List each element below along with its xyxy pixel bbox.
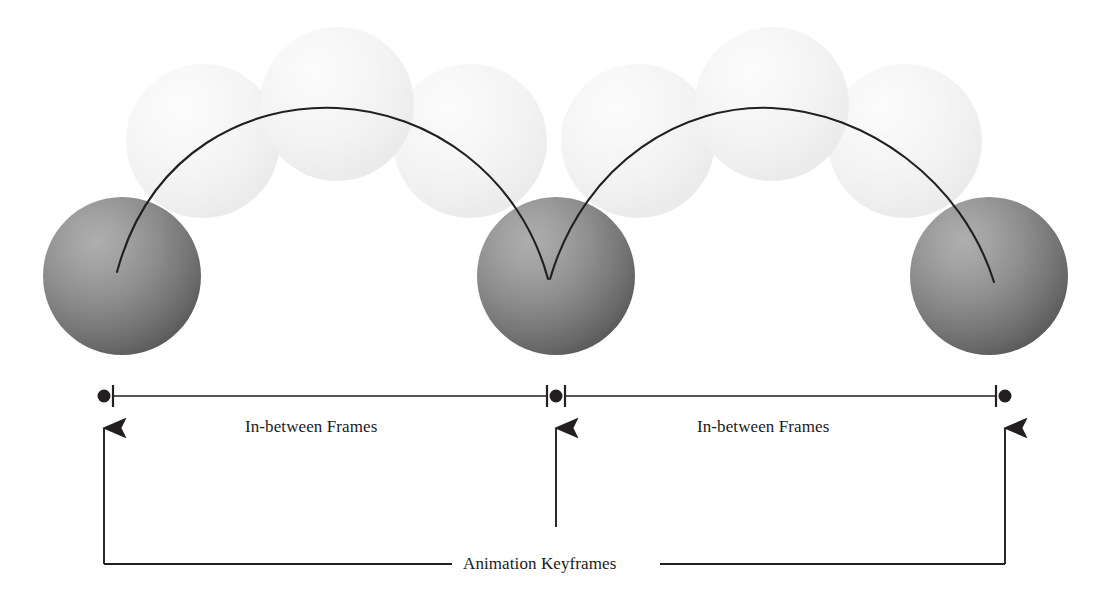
- inbetween-sphere: [260, 27, 414, 181]
- keyframe-sphere: [477, 197, 635, 355]
- inbetween-spheres-arc1: [126, 27, 547, 218]
- inbetween-sphere: [828, 64, 982, 218]
- inbetween-sphere: [695, 27, 849, 181]
- inbetween-sphere: [393, 64, 547, 218]
- inbetween-frames-label-right: In-between Frames: [697, 417, 829, 437]
- keyframe-marker-dot: [550, 390, 563, 403]
- timeline: [98, 385, 1012, 407]
- keyframe-bracket: [104, 428, 1005, 564]
- inbetween-sphere: [126, 64, 280, 218]
- keyframe-sphere: [43, 197, 201, 355]
- keyframe-marker-dot: [999, 390, 1012, 403]
- animation-keyframes-label: Animation Keyframes: [463, 554, 616, 574]
- inbetween-sphere: [561, 64, 715, 218]
- inbetween-spheres-arc2: [561, 27, 982, 218]
- keyframe-spheres: [43, 197, 1068, 355]
- keyframe-marker-dot: [98, 390, 111, 403]
- inbetween-frames-label-left: In-between Frames: [245, 417, 377, 437]
- animation-keyframes-figure: [0, 0, 1110, 599]
- keyframe-sphere: [910, 197, 1068, 355]
- diagram-canvas: In-between Frames In-between Frames Anim…: [0, 0, 1110, 599]
